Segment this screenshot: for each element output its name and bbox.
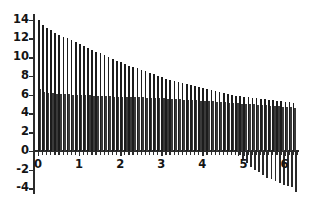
x-axis-minor-tick [190, 152, 191, 155]
y-axis-tick [29, 95, 34, 96]
y-axis-tick-label: 2 [21, 126, 29, 137]
bar [192, 100, 194, 151]
bar [142, 97, 144, 150]
x-axis-minor-tick [211, 152, 212, 155]
bar [97, 96, 99, 151]
x-axis-minor-tick [50, 152, 51, 155]
x-axis-minor-tick [219, 152, 220, 155]
bar [159, 98, 161, 151]
x-axis-minor-tick [87, 152, 88, 155]
y-axis-tick-label: 8 [21, 70, 29, 81]
x-axis-minor-tick [239, 152, 240, 155]
x-axis-minor-tick [206, 152, 207, 155]
x-axis-minor-tick [280, 152, 281, 155]
x-axis-minor-tick [256, 152, 257, 155]
bar [134, 97, 136, 150]
bar [204, 101, 206, 151]
bar [105, 96, 107, 151]
x-axis-minor-tick [293, 152, 294, 155]
x-axis-tick [243, 151, 244, 156]
bar [163, 98, 165, 151]
bar [114, 97, 116, 151]
bar [208, 101, 210, 151]
bar [146, 98, 148, 151]
x-axis-minor-tick [112, 152, 113, 155]
x-axis-minor-tick [141, 152, 142, 155]
x-axis-minor-tick [248, 152, 249, 155]
x-axis-tick [161, 151, 162, 156]
y-axis-tick [29, 57, 34, 58]
bar [275, 151, 277, 181]
y-axis-tick [29, 76, 34, 77]
x-axis-tick [38, 151, 39, 156]
bar [126, 97, 128, 151]
x-axis-minor-tick [91, 152, 92, 155]
x-axis-minor-tick [100, 152, 101, 155]
bar [77, 95, 79, 151]
y-axis-tick [29, 113, 34, 114]
bar [271, 151, 273, 180]
bar [229, 103, 231, 151]
x-axis-tick-label: 0 [34, 158, 42, 170]
x-axis-minor-tick [116, 152, 117, 155]
bar [290, 107, 292, 151]
bar [257, 105, 259, 151]
y-axis-tick-label: -4 [16, 182, 29, 193]
x-axis-minor-tick [108, 152, 109, 155]
x-axis-minor-tick [198, 152, 199, 155]
y-axis-tick-label: -2 [16, 164, 29, 175]
bar [85, 95, 87, 151]
bar [151, 98, 153, 151]
x-axis-tick-label: 3 [157, 158, 165, 170]
x-axis-minor-tick [149, 152, 150, 155]
x-axis-minor-tick [223, 152, 224, 155]
x-axis-minor-tick [182, 152, 183, 155]
bar [262, 105, 264, 151]
x-axis-tick-label: 6 [281, 158, 289, 170]
y-axis-tick [29, 151, 34, 152]
bar [89, 95, 91, 151]
bar [253, 104, 255, 150]
bar [233, 103, 235, 151]
bar [64, 94, 66, 151]
x-axis-minor-tick [227, 152, 228, 155]
bar [291, 151, 293, 188]
bar [101, 96, 103, 151]
bar [212, 101, 214, 151]
bar [278, 106, 280, 151]
bar [155, 98, 157, 151]
x-axis-minor-tick [58, 152, 59, 155]
x-axis-minor-tick [165, 152, 166, 155]
bar [183, 100, 185, 151]
x-axis-minor-tick [289, 152, 290, 155]
bar [118, 97, 120, 151]
x-axis-minor-tick [169, 152, 170, 155]
bar [196, 100, 198, 151]
y-axis-tick-label: 14 [13, 14, 29, 25]
bar [188, 100, 190, 151]
bar [294, 108, 296, 151]
y-axis-tick-label: 0 [21, 145, 29, 156]
x-axis-minor-tick [83, 152, 84, 155]
bar [68, 94, 70, 151]
x-axis-minor-tick [67, 152, 68, 155]
bar [122, 97, 124, 151]
x-axis-minor-tick [260, 152, 261, 155]
x-axis-minor-tick [75, 152, 76, 155]
y-axis-tick-label: 4 [21, 107, 29, 118]
bar [274, 106, 276, 151]
x-axis-minor-tick [95, 152, 96, 155]
x-axis-tick-label: 4 [198, 158, 206, 170]
bar [282, 107, 284, 151]
bar [175, 99, 177, 151]
bar [40, 89, 42, 151]
bar [130, 97, 132, 151]
bar [81, 95, 83, 151]
x-axis-tick-label: 5 [239, 158, 247, 170]
x-axis-minor-tick [157, 152, 158, 155]
y-axis-tick [29, 38, 34, 39]
x-axis-minor-tick [174, 152, 175, 155]
y-axis-tick [29, 132, 34, 133]
x-axis-minor-tick [42, 152, 43, 155]
x-axis-minor-tick [215, 152, 216, 155]
